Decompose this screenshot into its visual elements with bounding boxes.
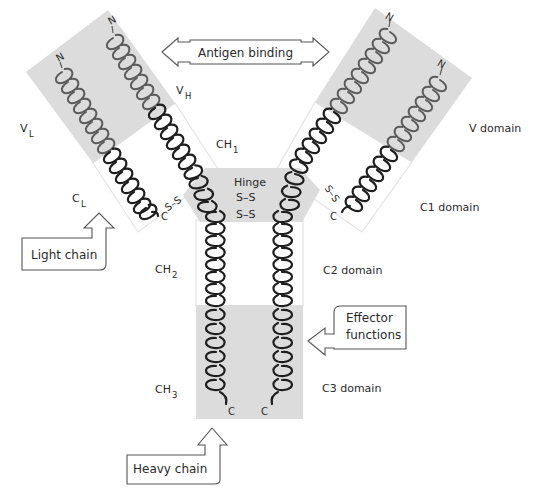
svg-text:V: V bbox=[176, 84, 184, 97]
svg-text:Effector: Effector bbox=[346, 311, 393, 325]
svg-text:C: C bbox=[72, 192, 80, 205]
c-terminus-left-light: C bbox=[161, 211, 168, 222]
svg-text:Antigen binding: Antigen binding bbox=[198, 46, 293, 60]
svg-text:Heavy chain: Heavy chain bbox=[133, 462, 207, 476]
hinge-bond-1: S–S bbox=[236, 191, 255, 204]
svg-text:V: V bbox=[20, 122, 28, 135]
label-v-domain: V domain bbox=[469, 122, 521, 135]
c-terminus-stem-left: C bbox=[228, 406, 235, 417]
heavy-chain-callout: Heavy chain bbox=[127, 428, 227, 484]
svg-text:2: 2 bbox=[172, 270, 177, 280]
antibody-diagram: N N N N C C C C S–S S–S Hinge S–S S–S V … bbox=[0, 0, 537, 502]
label-vl: V L bbox=[20, 122, 34, 139]
svg-text:H: H bbox=[185, 91, 191, 101]
svg-text:L: L bbox=[29, 129, 34, 139]
effector-functions-callout: Effector functions bbox=[308, 306, 406, 355]
light-chain-callout: Light chain bbox=[22, 213, 114, 270]
svg-text:1: 1 bbox=[233, 145, 238, 155]
svg-text:CH: CH bbox=[216, 138, 232, 151]
label-c2-domain: C2 domain bbox=[323, 264, 382, 277]
c-terminus-stem-right: C bbox=[261, 406, 268, 417]
svg-text:CH: CH bbox=[155, 383, 171, 396]
label-ch2: CH 2 bbox=[155, 263, 177, 280]
label-vh: V H bbox=[176, 84, 191, 101]
label-c1-domain: C1 domain bbox=[420, 201, 479, 214]
svg-text:functions: functions bbox=[346, 328, 401, 342]
svg-text:CH: CH bbox=[155, 263, 171, 276]
c-terminus-right-light: C bbox=[330, 211, 337, 222]
label-c3-domain: C3 domain bbox=[322, 382, 381, 395]
label-ch1: CH 1 bbox=[216, 138, 238, 155]
hinge-bond-2: S–S bbox=[236, 208, 255, 221]
svg-text:3: 3 bbox=[172, 390, 177, 400]
antigen-binding-callout: Antigen binding bbox=[162, 38, 329, 66]
hinge-label: Hinge bbox=[234, 176, 266, 189]
svg-text:Light chain: Light chain bbox=[31, 248, 97, 262]
svg-text:L: L bbox=[81, 199, 86, 209]
label-ch3: CH 3 bbox=[155, 383, 177, 400]
label-cl: C L bbox=[72, 192, 86, 209]
